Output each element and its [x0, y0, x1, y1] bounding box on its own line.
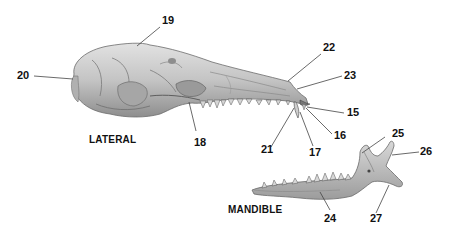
mandible-bone — [252, 141, 403, 199]
label-20: 20 — [17, 70, 29, 81]
label-21: 21 — [261, 144, 273, 155]
label-19: 19 — [162, 15, 174, 26]
label-16: 16 — [334, 130, 346, 141]
label-27: 27 — [370, 213, 382, 224]
view-title-mandible: MANDIBLE — [228, 205, 282, 215]
label-26: 26 — [420, 146, 432, 157]
label-18: 18 — [194, 137, 206, 148]
view-title-lateral: LATERAL — [89, 135, 136, 145]
label-24: 24 — [324, 213, 336, 224]
figure: 19 20 22 23 15 16 17 21 18 25 26 24 27 L… — [0, 0, 450, 240]
lateral-skull — [71, 43, 310, 118]
label-22: 22 — [323, 42, 335, 53]
illustration — [0, 0, 450, 240]
label-25: 25 — [392, 128, 404, 139]
label-17: 17 — [309, 147, 321, 158]
label-15: 15 — [347, 107, 359, 118]
label-23: 23 — [344, 70, 356, 81]
